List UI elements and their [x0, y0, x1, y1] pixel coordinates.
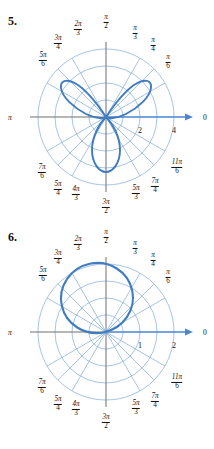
angle-label: π6 [166, 54, 171, 70]
figure-6: 6. [0, 224, 214, 449]
radial-tick-label: 1 [138, 341, 142, 350]
angle-label: 4π3 [72, 401, 80, 417]
angle-label: π6 [166, 269, 171, 285]
radial-tick-label: 2 [138, 126, 142, 135]
axis-label-pi: π [8, 113, 12, 122]
angle-label: π3 [133, 25, 138, 41]
angle-label: 11π6 [171, 159, 182, 175]
angle-label: 7π4 [151, 178, 159, 194]
angle-label: 3π4 [54, 35, 62, 51]
angle-label: π2 [104, 229, 109, 245]
angle-label: π3 [133, 240, 138, 256]
radial-tick-label: 4 [172, 126, 176, 135]
angle-label: π4 [151, 252, 156, 268]
angle-label: 7π6 [38, 164, 46, 180]
axis-label-zero: 0 [203, 328, 207, 337]
angle-label: 3π4 [54, 250, 62, 266]
angle-label: π2 [104, 14, 109, 30]
angle-label: 2π3 [74, 21, 82, 37]
angle-label: 7π4 [151, 393, 159, 409]
angle-label: 4π3 [72, 186, 80, 202]
angle-label: 2π3 [74, 236, 82, 252]
angle-label: 7π6 [38, 379, 46, 395]
polar-plot-5 [0, 0, 214, 224]
angle-label: 5π6 [39, 52, 47, 68]
radial-tick-label: 2 [172, 341, 176, 350]
angle-label: 5π4 [54, 396, 62, 412]
angle-label: 3π2 [102, 199, 110, 215]
angle-label: 5π3 [132, 185, 140, 201]
angle-label: 3π2 [102, 414, 110, 430]
angle-label: π4 [151, 37, 156, 53]
angle-label: 5π3 [132, 400, 140, 416]
angle-label: 5π6 [39, 267, 47, 283]
angle-label: 11π6 [171, 374, 182, 390]
axis-label-pi: π [8, 328, 12, 337]
figure-5: 5. [0, 0, 214, 224]
axis-label-zero: 0 [203, 113, 207, 122]
angle-label: 5π4 [54, 181, 62, 197]
